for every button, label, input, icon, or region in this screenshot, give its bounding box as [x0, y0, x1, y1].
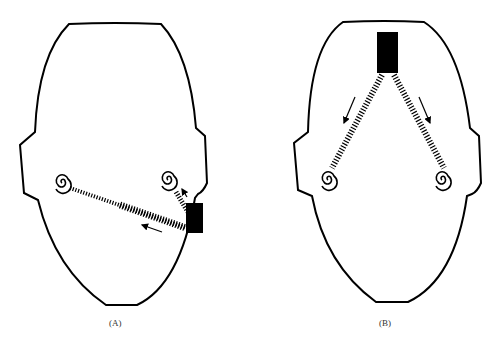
head-outline-a — [20, 23, 207, 305]
arrow-left-b — [344, 97, 355, 123]
arrow-far-a — [142, 225, 162, 232]
sound-wave-right-b — [394, 75, 444, 168]
arrow-near-a — [182, 189, 187, 197]
panel-b-label: (B) — [379, 318, 391, 328]
sound-source-a — [186, 203, 203, 233]
spiral-ear-left-a — [56, 175, 71, 194]
sound-source-b — [377, 32, 398, 73]
spiral-ear-right-a — [162, 172, 177, 191]
spiral-ear-left-b — [322, 172, 337, 191]
panel-b — [294, 21, 481, 302]
sound-wave-left-b — [332, 75, 382, 168]
spiral-ear-right-b — [436, 172, 451, 191]
panel-a — [20, 23, 207, 305]
panel-a-label: (A) — [109, 318, 122, 328]
diagram-canvas — [0, 0, 499, 345]
